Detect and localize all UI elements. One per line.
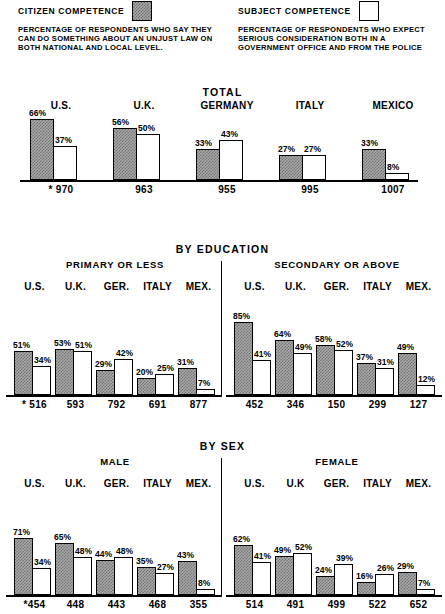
bar-subject-competence [136, 134, 160, 181]
bar-citizen-competence [234, 322, 253, 395]
legend-item-citizen-competence: CITIZEN COMPETENCE PERCENTAGE OF RESPOND… [18, 0, 223, 53]
bar-citizen-competence [178, 561, 197, 595]
baseline-axis [6, 595, 222, 597]
bar-value-label-subject: 48% [75, 546, 92, 556]
bar-subject-competence [293, 553, 312, 595]
bar-subject-competence [73, 557, 92, 595]
bar-citizen-competence [196, 149, 220, 180]
bar-citizen-competence [55, 349, 74, 395]
section-title-by-sex: BY SEX [0, 440, 445, 452]
bar-value-label-subject: 27% [157, 562, 174, 572]
bar-subject-competence [252, 360, 271, 395]
bar-citizen-competence [316, 345, 335, 395]
bar-value-label-subject: 8% [198, 578, 210, 588]
bar-value-label-subject: 49% [295, 342, 312, 352]
sample-size-label: 877 [170, 399, 227, 410]
bar-value-label-citizen: 65% [54, 532, 71, 542]
baseline-axis [226, 595, 442, 597]
bar-subject-competence [219, 140, 243, 180]
bar-citizen-competence [275, 556, 294, 595]
section-total: TOTALU.S.66%37%* 970U.K.56%50%963GERMANY… [0, 86, 445, 204]
bar-citizen-competence [96, 370, 115, 395]
bar-value-label-citizen: 37% [356, 352, 373, 362]
bar-value-label-citizen: 62% [233, 534, 250, 544]
category-label: MEXICO [356, 100, 430, 111]
chart-legend: CITIZEN COMPETENCE PERCENTAGE OF RESPOND… [0, 0, 445, 82]
bar-value-label-subject: 48% [116, 546, 133, 556]
bar-value-label-citizen: 16% [356, 571, 373, 581]
bar-value-label-subject: 39% [336, 553, 353, 563]
bar-value-label-subject: 43% [221, 129, 238, 139]
bar-value-label-citizen: 58% [315, 334, 332, 344]
bar-citizen-competence [398, 353, 417, 395]
bar-subject-competence [375, 368, 394, 395]
bar-subject-competence [302, 155, 326, 180]
bar-value-label-citizen: 31% [177, 357, 194, 367]
legend-subject-description: PERCENTAGE OF RESPONDENTS WHO EXPECT SER… [238, 25, 443, 53]
bar-value-label-subject: 42% [116, 348, 133, 358]
bar-value-label-subject: 7% [418, 578, 430, 588]
bar-value-label-subject: 7% [198, 378, 210, 388]
sample-size-label: 127 [390, 399, 445, 410]
bar-citizen-competence [137, 567, 156, 595]
bar-citizen-competence [398, 572, 417, 595]
section-by-education: BY EDUCATIONPRIMARY OR LESSU.S.51%34%* 5… [0, 243, 445, 421]
bar-value-label-subject: 37% [55, 135, 72, 145]
bar-subject-competence [114, 359, 133, 395]
bar-citizen-competence [275, 340, 294, 395]
bar-value-label-citizen: 24% [315, 565, 332, 575]
panel-title-primary-or-less: PRIMARY OR LESS [18, 259, 212, 270]
bar-citizen-competence [113, 128, 137, 180]
sample-size-label: 963 [105, 184, 183, 195]
bar-subject-competence [334, 564, 353, 595]
baseline-axis [20, 180, 418, 182]
bar-citizen-competence [357, 582, 376, 595]
bar-value-label-subject: 52% [295, 542, 312, 552]
bar-subject-competence [334, 350, 353, 395]
sample-size-label: 995 [271, 184, 349, 195]
bar-subject-competence [416, 385, 435, 395]
bar-value-label-subject: 25% [157, 363, 174, 373]
chart-sheet: CITIZEN COMPETENCE PERCENTAGE OF RESPOND… [0, 0, 445, 614]
bar-citizen-competence [362, 149, 386, 180]
category-label: MEX. [392, 478, 445, 489]
bar-citizen-competence [357, 363, 376, 395]
bar-value-label-citizen: 35% [136, 556, 153, 566]
baseline-axis [6, 395, 222, 397]
bar-value-label-citizen: 64% [274, 329, 291, 339]
bar-value-label-citizen: 27% [278, 144, 295, 154]
sample-size-label: * 970 [22, 184, 100, 195]
panel-title-female: FEMALE [238, 456, 436, 467]
bar-value-label-citizen: 51% [13, 340, 30, 350]
category-label: GERMANY [190, 100, 264, 111]
bar-value-label-subject: 27% [304, 144, 321, 154]
bar-subject-competence [375, 574, 394, 595]
bar-citizen-competence [14, 538, 33, 595]
bar-subject-competence [32, 366, 51, 395]
bar-citizen-competence [30, 119, 54, 180]
bar-value-label-subject: 41% [254, 349, 271, 359]
bar-subject-competence [293, 353, 312, 395]
bar-value-label-citizen: 49% [397, 342, 414, 352]
bar-value-label-subject: 12% [418, 374, 435, 384]
bar-subject-competence [114, 557, 133, 595]
bar-citizen-competence [279, 155, 303, 180]
bar-subject-competence [155, 573, 174, 595]
bar-value-label-citizen: 33% [195, 138, 212, 148]
bar-value-label-citizen: 29% [397, 561, 414, 571]
open-square-swatch-icon [359, 1, 379, 21]
bar-subject-competence [252, 562, 271, 595]
bar-value-label-subject: 52% [336, 339, 353, 349]
panel-title-male: MALE [18, 456, 212, 467]
bar-value-label-subject: 34% [34, 355, 51, 365]
bar-value-label-citizen: 49% [274, 545, 291, 555]
bar-value-label-subject: 34% [34, 557, 51, 567]
bar-value-label-citizen: 44% [95, 549, 112, 559]
filled-square-swatch-icon [132, 1, 152, 21]
bar-subject-competence [385, 173, 409, 180]
section-by-sex: BY SEXMALEU.S.71%34%*454U.K.65%48%448GER… [0, 440, 445, 614]
bar-citizen-competence [14, 351, 33, 395]
category-label: MEX. [392, 281, 445, 292]
section-title-total: TOTAL [0, 86, 445, 98]
bar-value-label-citizen: 56% [112, 117, 129, 127]
